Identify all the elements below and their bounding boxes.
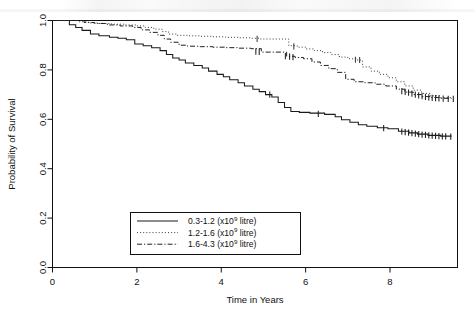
- x-tick-label: 2: [134, 276, 139, 287]
- survival-plot-figure: 0.00.20.40.60.81.0 02468 Time in Years P…: [0, 0, 475, 317]
- x-axis-title: Time in Years: [226, 294, 283, 305]
- y-tick-label: 0.2: [37, 211, 48, 224]
- x-tick-label: 6: [303, 276, 308, 287]
- legend-label-base: 0.3-1.2 (x10: [188, 216, 234, 226]
- legend: 0.3-1.2 (x109 litre)1.2-1.6 (x109 litre)…: [131, 213, 301, 255]
- legend-label-base: 1.6-4.3 (x10: [188, 239, 234, 249]
- y-tick-label: 0.8: [37, 63, 48, 76]
- plot-canvas: 0.00.20.40.60.81.0 02468 Time in Years P…: [0, 0, 475, 317]
- legend-label: 1.6-4.3 (x109 litre): [188, 238, 257, 249]
- x-tick-label: 0: [50, 276, 55, 287]
- legend-label: 1.2-1.6 (x109 litre): [188, 226, 257, 237]
- legend-label-base: 1.2-1.6 (x10: [188, 228, 234, 238]
- y-tick-label: 0.6: [37, 113, 48, 126]
- x-tick-label: 4: [219, 276, 224, 287]
- y-tick-label: 1.0: [37, 14, 48, 27]
- x-tick-label: 8: [387, 276, 392, 287]
- legend-label-tail: litre): [237, 216, 256, 226]
- y-axis-title: Probability of Survival: [6, 98, 17, 189]
- legend-label-tail: litre): [237, 239, 256, 249]
- y-tick-label: 0.0: [37, 261, 48, 274]
- legend-label-tail: litre): [237, 228, 256, 238]
- y-tick-label: 0.4: [37, 162, 48, 175]
- legend-label: 0.3-1.2 (x109 litre): [188, 215, 257, 226]
